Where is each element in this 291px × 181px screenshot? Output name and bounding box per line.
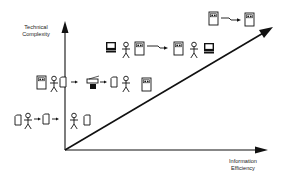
person-icon [122,42,130,58]
arrow-icon [34,117,41,120]
server-icon [174,42,183,55]
person-icon [24,113,32,129]
x-axis [65,147,268,154]
arrow-icon [100,80,107,83]
x-axis-arrowhead-icon [255,147,268,154]
file-cabinet-icon [142,78,151,91]
document-icon [43,114,49,124]
server-icon [135,42,144,55]
document-icon [15,115,21,125]
trend-arrowhead-icon [259,27,273,38]
stage-1 [15,113,90,129]
file-cabinet-icon [37,76,46,89]
document-icon [84,115,90,125]
arrow-icon [52,117,59,120]
person-icon [70,113,78,129]
computer-icon [106,42,116,53]
trend-arrow [65,27,273,150]
computer-icon [204,43,214,54]
document-icon [111,77,117,87]
person-icon [190,42,198,58]
person-icon [122,76,130,92]
diagram-svg [0,0,291,181]
stage-3 [106,42,214,58]
stage-4 [209,12,254,26]
stage-2 [37,76,151,92]
arrow-icon [71,80,78,83]
network-link-arrow-icon [221,18,241,22]
network-link-arrow-icon [147,46,168,50]
diagram-canvas: Technical Complexity Information Efficie… [0,0,291,181]
y-axis-arrowhead-icon [62,21,69,33]
server-icon [209,12,218,25]
person-icon [50,76,58,92]
document-icon [60,77,66,87]
fax-machine-icon [87,76,99,89]
server-icon [245,13,254,26]
